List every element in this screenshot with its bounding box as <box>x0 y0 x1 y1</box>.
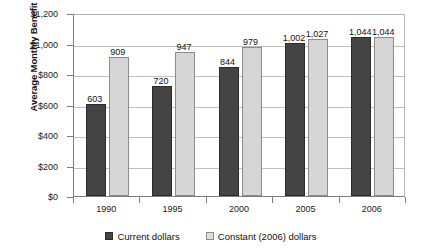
y-tick-label: $1,000 <box>8 40 58 50</box>
y-tick: $800 <box>0 70 67 80</box>
x-tick-label-2006: 2006 <box>342 204 402 215</box>
bar-value-label: 603 <box>78 94 112 104</box>
y-tick-label: $800 <box>8 70 58 80</box>
bar-2006-constant <box>374 37 394 196</box>
y-tick: $1,000 <box>0 40 67 50</box>
legend-item-current-dollars: Current dollars <box>105 231 179 242</box>
legend-swatch-icon-current <box>105 232 113 240</box>
chart-legend: Current dollars Constant (2006) dollars <box>0 228 422 244</box>
y-tick: $200 <box>0 162 67 172</box>
bar-2005-constant <box>308 39 328 196</box>
x-tick-mark <box>272 197 273 203</box>
x-tick-mark <box>139 197 140 203</box>
y-tick: $0 <box>0 192 67 202</box>
y-tick-label: $0 <box>8 192 58 202</box>
y-tick-label: $600 <box>8 101 58 111</box>
x-tick-mark <box>206 197 207 203</box>
bar-1995-constant <box>175 52 195 196</box>
x-tick-mark <box>405 197 406 203</box>
legend-item-constant-dollars: Constant (2006) dollars <box>206 231 317 242</box>
legend-label-constant: Constant (2006) dollars <box>218 231 317 242</box>
x-tick-label-2000: 2000 <box>209 204 269 215</box>
legend-swatch-icon-constant <box>206 232 214 240</box>
legend-label-current: Current dollars <box>117 231 179 242</box>
y-tick-label: $200 <box>8 162 58 172</box>
x-tick-label-1995: 1995 <box>143 204 203 215</box>
bar-value-label: 844 <box>211 57 245 67</box>
y-tick: $400 <box>0 131 67 141</box>
bar-2000-constant <box>242 47 262 196</box>
bar-value-label: 1,044 <box>366 27 400 37</box>
x-tick-label-2005: 2005 <box>275 204 335 215</box>
y-tick-label: $1,200 <box>8 9 58 19</box>
x-tick-label-1990: 1990 <box>76 204 136 215</box>
bar-value-label: 720 <box>144 76 178 86</box>
y-tick: $600 <box>0 101 67 111</box>
bar-2000-current <box>219 67 239 196</box>
x-tick-mark <box>73 197 74 203</box>
bar-value-label: 1,027 <box>300 29 334 39</box>
y-tick: $1,200 <box>0 9 67 19</box>
bar-1990-constant <box>109 57 129 196</box>
bar-value-label: 979 <box>234 37 268 47</box>
y-tick-label: $400 <box>8 131 58 141</box>
bar-2005-current <box>285 43 305 196</box>
bar-2006-current <box>351 37 371 196</box>
bar-value-label: 947 <box>167 42 201 52</box>
x-tick-mark <box>339 197 340 203</box>
bar-1990-current <box>86 104 106 196</box>
bar-1995-current <box>152 86 172 196</box>
bar-value-label: 909 <box>101 47 135 57</box>
bar-chart: Average Monthly Benefit $0$200$400$600$8… <box>0 0 422 249</box>
